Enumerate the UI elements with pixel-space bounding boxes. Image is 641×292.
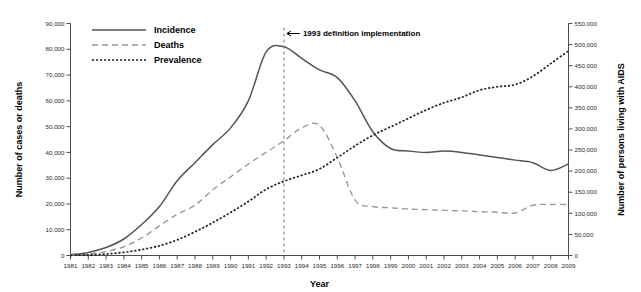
y2-axis-tick-label: 250,000 <box>575 146 598 153</box>
x-axis-tick-label: 1987 <box>170 262 184 269</box>
x-axis-tick-label: 1994 <box>295 262 309 269</box>
x-axis-tick-label: 1992 <box>259 262 273 269</box>
chart-canvas: 010,00020,00030,00040,00050,00060,00070,… <box>0 0 641 292</box>
x-axis-tick-label: 1984 <box>117 262 131 269</box>
y2-axis-tick-label: 50,000 <box>575 231 594 238</box>
y2-axis-title: Number of persons living with AIDS <box>616 63 626 216</box>
x-axis-tick-label: 1993 <box>277 262 291 269</box>
y2-axis-tick-label: 500,000 <box>575 41 598 48</box>
x-axis-tick-label: 2003 <box>455 262 469 269</box>
x-axis-tick-label: 1991 <box>241 262 255 269</box>
x-axis-tick-label: 1998 <box>366 262 380 269</box>
y2-axis-tick-label: 200,000 <box>575 167 598 174</box>
x-axis-tick-label: 1995 <box>313 262 327 269</box>
series-line-prevalence <box>71 51 569 255</box>
x-axis-tick-label: 1997 <box>348 262 362 269</box>
y-axis-tick-label: 20,000 <box>46 200 65 207</box>
x-axis-tick-label: 2009 <box>562 262 576 269</box>
y2-axis-tick-label: 450,000 <box>575 62 598 69</box>
x-axis-tick-label: 1999 <box>384 262 398 269</box>
x-axis-tick-label: 2001 <box>419 262 433 269</box>
x-axis-tick-label: 2007 <box>526 262 540 269</box>
legend-label-incidence: Incidence <box>154 25 196 35</box>
annotation-label: 1993 definition implementation <box>303 29 420 38</box>
y-axis-tick-label: 60,000 <box>46 97 65 104</box>
y2-axis-tick-label: 300,000 <box>575 125 598 132</box>
x-axis-tick-label: 1983 <box>99 262 113 269</box>
y-axis-tick-label: 90,000 <box>46 20 65 27</box>
y2-axis-tick-label: 350,000 <box>575 104 598 111</box>
x-axis-tick-label: 2008 <box>544 262 558 269</box>
x-axis-tick-label: 1985 <box>135 262 149 269</box>
y2-axis-tick-label: 100,000 <box>575 210 598 217</box>
x-axis-tick-label: 2002 <box>437 262 451 269</box>
y-axis-tick-label: 30,000 <box>46 174 65 181</box>
annotation-arrow-icon <box>287 31 300 36</box>
x-axis-tick-label: 2000 <box>402 262 416 269</box>
x-axis-title: Year <box>310 279 330 289</box>
y-axis-tick-label: 0 <box>61 252 65 259</box>
x-axis-tick-label: 1990 <box>224 262 238 269</box>
x-axis-tick-label: 2005 <box>490 262 504 269</box>
x-axis-tick-label: 2006 <box>508 262 522 269</box>
x-axis-tick-label: 1989 <box>206 262 220 269</box>
series-line-incidence <box>71 45 569 254</box>
y-axis-tick-label: 40,000 <box>46 149 65 156</box>
x-axis-tick-label: 1986 <box>153 262 167 269</box>
y-axis-tick-label: 10,000 <box>46 226 65 233</box>
aids-surveillance-chart: 010,00020,00030,00040,00050,00060,00070,… <box>0 0 641 292</box>
x-axis-tick-label: 2004 <box>473 262 487 269</box>
y-axis-tick-label: 70,000 <box>46 71 65 78</box>
legend-label-prevalence: Prevalence <box>154 55 202 65</box>
y2-axis-tick-label: 400,000 <box>575 83 598 90</box>
x-axis-tick-label: 1982 <box>81 262 95 269</box>
y2-axis-tick-label: 150,000 <box>575 188 598 195</box>
y-axis-tick-label: 50,000 <box>46 123 65 130</box>
y2-axis-tick-label: 550,000 <box>575 20 598 27</box>
y-axis-title: Number of cases or deaths <box>14 82 24 198</box>
y2-axis-tick-label: 0 <box>575 252 579 259</box>
x-axis-tick-label: 1988 <box>188 262 202 269</box>
legend-label-deaths: Deaths <box>154 40 184 50</box>
y-axis-tick-label: 80,000 <box>46 45 65 52</box>
x-axis-tick-label: 1981 <box>64 262 78 269</box>
series-line-deaths <box>71 123 569 255</box>
x-axis-tick-label: 1996 <box>330 262 344 269</box>
